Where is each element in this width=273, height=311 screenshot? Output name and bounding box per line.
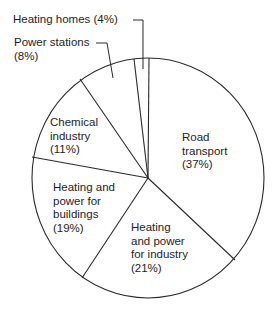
label-industry-line3: for industry [131, 248, 188, 262]
label-heating-buildings: Heating and power for buildings (19%) [53, 181, 115, 235]
label-chemical-industry: Chemical industry (11%) [50, 116, 98, 157]
label-industry-pct: (21%) [131, 262, 188, 276]
label-buildings-line2: power for [53, 195, 115, 209]
label-industry-line2: and power [131, 235, 188, 249]
label-buildings-line1: Heating and [53, 181, 115, 195]
label-road-pct: (37%) [182, 158, 227, 172]
label-buildings-pct: (19%) [53, 222, 115, 236]
label-heating-homes: Heating homes (4%) [13, 13, 118, 27]
label-chemical-pct: (11%) [50, 143, 98, 157]
label-chemical-line1: Chemical [50, 116, 98, 130]
label-road-line1: Road [182, 131, 227, 145]
label-power-stations: Power stations (8%) [14, 36, 89, 63]
label-chemical-line2: industry [50, 130, 98, 144]
label-heating-industry: Heating and power for industry (21%) [131, 221, 188, 275]
label-road-transport: Road transport (37%) [182, 131, 227, 172]
label-road-line2: transport [182, 145, 227, 159]
label-buildings-line3: buildings [53, 208, 115, 222]
label-power-stations-pct: (8%) [14, 50, 89, 64]
label-heating-homes-text: Heating homes (4%) [13, 13, 118, 27]
label-industry-line1: Heating [131, 221, 188, 235]
label-power-stations-name: Power stations [14, 36, 89, 50]
